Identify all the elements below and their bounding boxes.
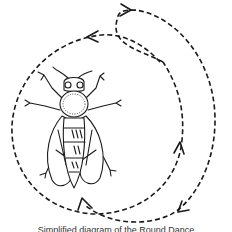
bee-thorax xyxy=(60,91,88,117)
round-dance-diagram xyxy=(0,0,232,232)
leg-mid-left xyxy=(25,100,60,110)
leg-front-left xyxy=(38,72,62,98)
outer-loop-path xyxy=(85,10,215,222)
arrow-bottom-right-icon xyxy=(178,201,189,212)
arrow-right-inner-icon xyxy=(174,142,184,154)
leg-mid-right xyxy=(88,100,121,110)
leg-front-right xyxy=(86,73,104,98)
figure-caption: Simplified diagram of the Round Dance xyxy=(0,225,232,232)
honeybee-illustration xyxy=(25,67,121,188)
inner-loop-path xyxy=(12,35,183,214)
antenna-left xyxy=(53,67,68,78)
antenna-right xyxy=(78,71,92,78)
